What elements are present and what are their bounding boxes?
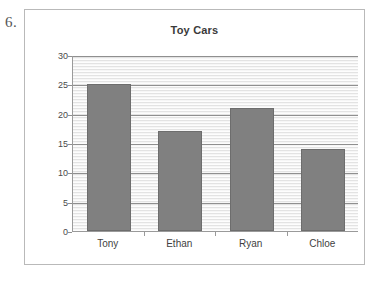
bar-ethan (158, 131, 202, 231)
bar-ryan (230, 108, 274, 231)
x-axis-label-ryan: Ryan (239, 238, 262, 249)
x-axis-label-ethan: Ethan (166, 238, 192, 249)
x-axis-label-chloe: Chloe (309, 238, 335, 249)
chart-frame: Toy Cars 051015202530 TonyEthanRyanChloe (24, 9, 365, 265)
x-axis-label-tony: Tony (97, 238, 118, 249)
bar-tony (87, 84, 131, 231)
x-axis-category-labels: TonyEthanRyanChloe (72, 238, 358, 256)
plot-area (72, 56, 358, 232)
x-axis-tick-mark (144, 232, 145, 236)
x-axis-tick-mark (287, 232, 288, 236)
gridline (73, 56, 358, 57)
bar-chloe (301, 149, 345, 231)
chart-title: Toy Cars (25, 24, 364, 36)
y-axis-tick-marks (25, 56, 75, 232)
question-number: 6. (5, 14, 17, 31)
x-axis-tick-mark (215, 232, 216, 236)
x-axis-tick-marks (72, 232, 358, 237)
